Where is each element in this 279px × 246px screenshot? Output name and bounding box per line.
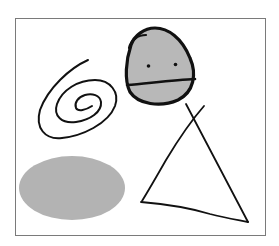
gray-ellipse: [19, 156, 125, 220]
sketch-canvas: [0, 0, 279, 246]
face-drawing: [126, 28, 195, 104]
triangle-drawing: [141, 104, 248, 222]
spiral-drawing: [39, 60, 117, 138]
